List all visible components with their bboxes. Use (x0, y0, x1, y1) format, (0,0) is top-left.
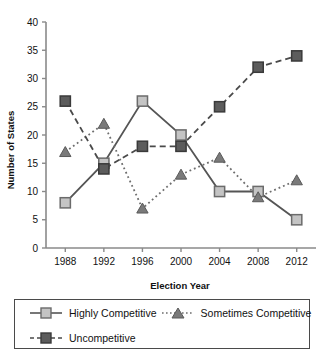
legend-label-uncompetitive: Uncompetitive (69, 332, 136, 344)
legend-row-1: Highly Competitive Sometimes Competitive (15, 300, 309, 325)
data-point-marker (137, 96, 147, 106)
data-point-marker (137, 141, 147, 151)
data-point-marker (291, 175, 302, 185)
x-tick-label: 1988 (54, 256, 77, 267)
data-point-marker (214, 102, 224, 112)
y-tick-label: 20 (27, 130, 39, 141)
chart-legend: Highly Competitive Sometimes Competitive… (14, 299, 310, 349)
y-tick-label: 40 (27, 17, 39, 28)
x-tick-label: 1996 (131, 256, 154, 267)
legend-entry-highly-competitive: Highly Competitive (15, 300, 157, 325)
data-point-marker (176, 130, 186, 140)
legend-swatch-uncompetitive (29, 331, 63, 345)
legend-label-sometimes-competitive: Sometimes Competitive (201, 307, 312, 319)
plot-area: 0510152025303540198819921996200020042008… (0, 0, 328, 299)
data-point-marker (137, 203, 148, 213)
legend-swatch-highly-competitive (29, 306, 63, 320)
x-tick-label: 2008 (247, 256, 270, 267)
legend-row-2: Uncompetitive (15, 325, 309, 350)
data-point-marker (253, 62, 263, 72)
data-point-marker (292, 51, 302, 61)
data-point-marker (98, 118, 109, 128)
data-point-marker (60, 198, 70, 208)
y-tick-label: 25 (27, 101, 39, 112)
y-axis-title: Number of States (5, 111, 16, 190)
y-tick-label: 15 (27, 158, 39, 169)
y-tick-label: 30 (27, 73, 39, 84)
legend-entry-uncompetitive: Uncompetitive (15, 325, 181, 350)
axes: 0510152025303540198819921996200020042008… (27, 17, 316, 267)
x-tick-label: 1992 (93, 256, 116, 267)
y-tick-label: 10 (27, 186, 39, 197)
x-tick-label: 2004 (208, 256, 231, 267)
legend-entry-sometimes-competitive: Sometimes Competitive (157, 300, 312, 325)
x-tick-label: 2000 (170, 256, 193, 267)
data-point-marker (214, 152, 225, 162)
data-point-marker (175, 169, 186, 179)
data-series-layer (60, 51, 303, 225)
legend-swatch-sometimes-competitive (161, 306, 195, 320)
legend-label-highly-competitive: Highly Competitive (69, 307, 157, 319)
x-axis-title: Election Year (150, 280, 210, 291)
data-point-marker (176, 141, 186, 151)
data-point-marker (214, 186, 224, 196)
line-chart: 0510152025303540198819921996200020042008… (0, 0, 328, 359)
y-tick-label: 0 (32, 243, 38, 254)
data-point-marker (60, 96, 70, 106)
y-tick-label: 5 (32, 214, 38, 225)
y-tick-label: 35 (27, 45, 39, 56)
data-point-marker (99, 164, 109, 174)
x-tick-label: 2012 (286, 256, 309, 267)
data-point-marker (292, 215, 302, 225)
